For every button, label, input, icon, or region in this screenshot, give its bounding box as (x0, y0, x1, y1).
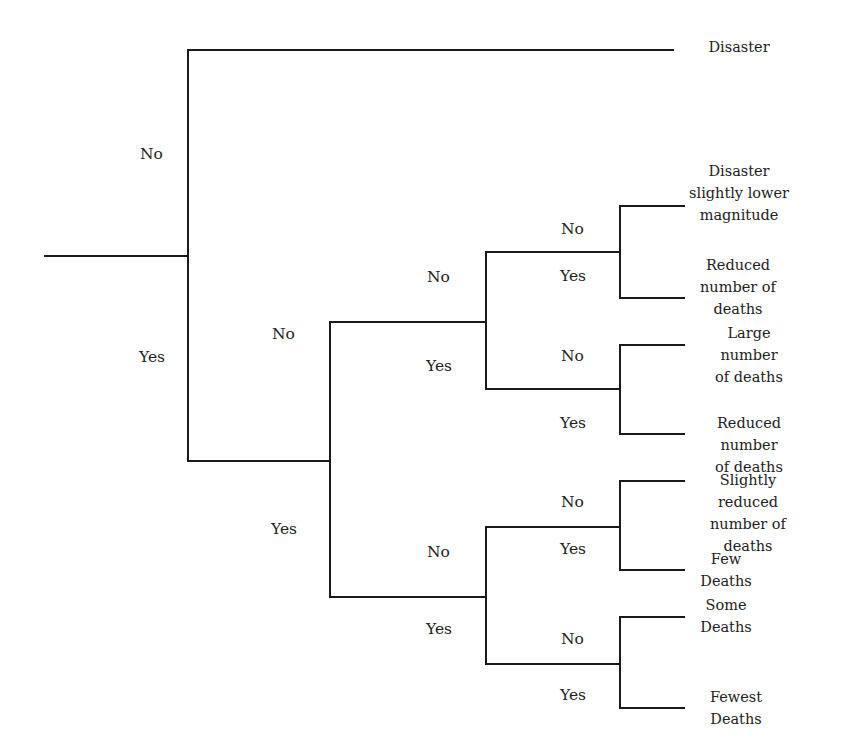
outcome-disaster-slightly-lower: Disaster slightly lower magnitude (689, 160, 789, 226)
outcome-large-number-deaths: Large number of deaths (698, 322, 801, 388)
outcome-disaster: Disaster (708, 36, 769, 58)
edge-label-level3b-no: No (427, 541, 450, 563)
edge-label-level3a-no: No (427, 266, 450, 288)
edge-label-level2-yes: Yes (271, 518, 297, 540)
outcome-slightly-reduced-deaths: Slightly reduced number of deaths (696, 469, 800, 557)
edge-label-level4c-no: No (561, 491, 584, 513)
edge-label-level4d-yes: Yes (560, 684, 586, 706)
edge-label-level4d-no: No (561, 628, 584, 650)
edge-label-level4a-yes: Yes (560, 265, 586, 287)
edge-label-level1-no: No (140, 143, 163, 165)
outcome-few-deaths: Few Deaths (700, 548, 751, 592)
edge-label-level4a-no: No (561, 218, 584, 240)
outcome-some-deaths: Some Deaths (700, 594, 751, 638)
edge-label-level2-no: No (272, 323, 295, 345)
edge-label-level4b-no: No (561, 345, 584, 367)
outcome-fewest-deaths: Fewest Deaths (710, 686, 762, 730)
edge-label-level3a-yes: Yes (426, 355, 452, 377)
edge-label-level1-yes: Yes (139, 346, 165, 368)
edge-label-level3b-yes: Yes (426, 618, 452, 640)
edge-label-level4c-yes: Yes (560, 538, 586, 560)
outcome-reduced-deaths-1: Reduced number of deaths (700, 254, 776, 320)
edge-label-level4b-yes: Yes (560, 412, 586, 434)
